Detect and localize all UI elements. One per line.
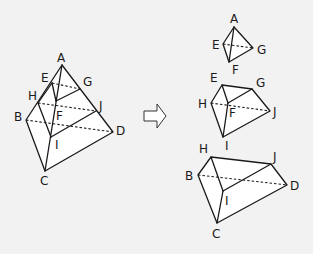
label-G: G (83, 75, 92, 89)
label-G: G (257, 43, 266, 57)
piece-middle-frustum (211, 85, 270, 137)
outline-right-arrow-icon (144, 104, 166, 128)
label-J: J (98, 99, 103, 113)
diagram-canvas: A E G H F J B D I C A E G F E G H F (0, 0, 313, 254)
label-I: I (55, 138, 59, 152)
label-B: B (185, 169, 193, 183)
label-F: F (56, 109, 63, 123)
label-A: A (230, 12, 239, 26)
label-D: D (290, 179, 299, 193)
label-F: F (229, 106, 236, 120)
label-H: H (28, 89, 37, 103)
piece-bottom-frustum (198, 157, 287, 223)
label-C: C (40, 174, 48, 188)
piece-top-tetrahedron (223, 27, 253, 62)
label-C: C (212, 227, 220, 241)
label-G: G (256, 76, 265, 90)
original-tetrahedron (26, 65, 113, 171)
label-I: I (225, 139, 229, 153)
label-F: F (232, 63, 239, 77)
label-E: E (210, 71, 218, 85)
label-J: J (272, 105, 277, 119)
label-D: D (116, 124, 125, 138)
label-H: H (199, 142, 208, 156)
label-A: A (57, 51, 66, 65)
diagram-svg: A E G H F J B D I C A E G F E G H F (0, 0, 313, 254)
label-I: I (225, 194, 229, 208)
label-E: E (212, 38, 220, 52)
label-H: H (198, 97, 207, 111)
label-E: E (41, 71, 49, 85)
label-B: B (14, 110, 22, 124)
label-J: J (272, 150, 277, 164)
